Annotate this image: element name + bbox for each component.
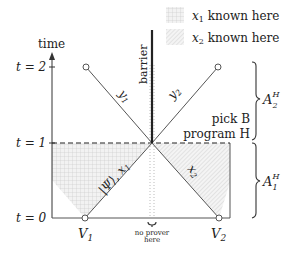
arrow-up-icon [49, 52, 55, 60]
verifier-v2-node [216, 215, 222, 221]
no-prover-label-2: here [144, 236, 160, 244]
program-h-label: program H [183, 127, 250, 141]
brace-a2-label: AH2 [262, 90, 280, 110]
verifier-v1-node [82, 215, 88, 221]
endpoint-y2 [215, 64, 221, 70]
legend-swatch-hatch [166, 29, 184, 45]
legend-label-x1: x1 known here [192, 9, 279, 24]
endpoint-y1 [83, 64, 89, 70]
tick-t1: t = 1 [16, 136, 46, 150]
tick-t2: t = 2 [16, 60, 46, 74]
label-y2: y2 [164, 84, 184, 104]
axis-label-time: time [38, 37, 65, 51]
region-x2-known [152, 143, 230, 218]
tick-t0: t = 0 [16, 211, 47, 225]
barrier-label: barrier [137, 44, 150, 84]
brace-a2-icon [252, 62, 260, 140]
verifier-v2-label: V2 [211, 226, 226, 243]
legend-swatch-grid [166, 7, 184, 23]
time-axis: time t = 2 t = 1 t = 0 [16, 37, 65, 225]
legend: x1 known here x2 known here [166, 7, 279, 46]
brace-a1-icon [252, 143, 260, 218]
spacetime-diagram: x1 known here x2 known here time t = 2 t… [0, 0, 295, 253]
pick-b-label: pick B [212, 112, 250, 126]
verifier-v1-label: V1 [78, 226, 93, 243]
brace-down-icon [148, 222, 156, 227]
brace-a1-label: AH1 [262, 172, 280, 192]
legend-label-x2: x2 known here [192, 31, 279, 46]
